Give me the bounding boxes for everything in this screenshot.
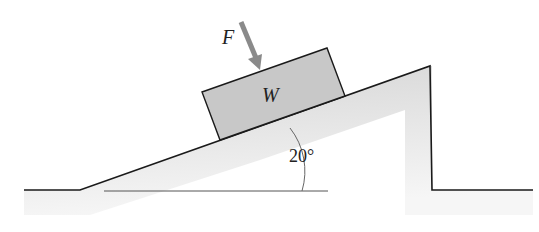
block-label: W: [262, 84, 281, 106]
force-label: F: [221, 26, 235, 48]
force-arrow: [241, 22, 262, 70]
angle-label: 20°: [289, 146, 314, 166]
incline-diagram: F W 20°: [0, 0, 539, 232]
